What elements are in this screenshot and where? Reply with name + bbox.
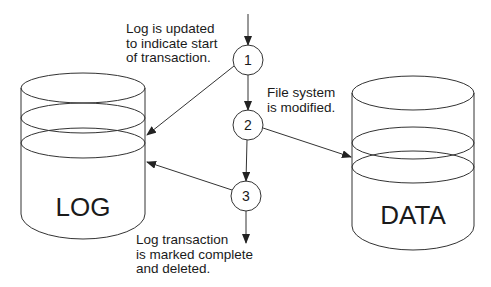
- step3-annotation-line-3: and deleted.: [136, 262, 253, 277]
- step1-annotation-line-3: of transaction.: [126, 51, 218, 66]
- step-1-number: 1: [233, 45, 263, 75]
- step2-annotation-line-1: File system: [267, 86, 335, 101]
- step3-to-log-arrow: [147, 162, 232, 190]
- step3-annotation-line-2: is marked complete: [136, 248, 253, 263]
- step-3-number: 3: [231, 181, 261, 211]
- step3-annotation: Log transaction is marked complete and d…: [136, 233, 253, 277]
- step2-annotation-line-2: is modified.: [267, 101, 335, 116]
- step2-annotation: File system is modified.: [267, 86, 335, 115]
- step2-to-step3-arrow: [246, 140, 247, 181]
- step1-annotation-line-1: Log is updated: [126, 22, 218, 37]
- data-cylinder-label: DATA: [352, 202, 474, 228]
- step3-annotation-line-1: Log transaction: [136, 233, 253, 248]
- step1-to-log-arrow: [147, 66, 234, 135]
- step2-to-data-arrow: [263, 128, 351, 157]
- step1-annotation: Log is updated to indicate start of tran…: [126, 22, 218, 66]
- step-2-number: 2: [233, 110, 263, 140]
- step1-annotation-line-2: to indicate start: [126, 37, 218, 52]
- log-cylinder-label: LOG: [21, 194, 145, 220]
